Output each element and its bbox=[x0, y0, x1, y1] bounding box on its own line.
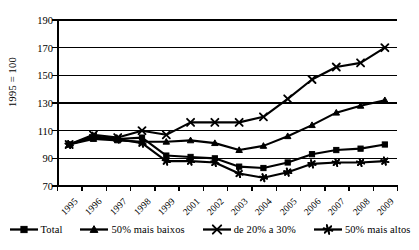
x-axis-tick-mark bbox=[130, 186, 131, 191]
square-marker-icon bbox=[285, 160, 290, 165]
y-axis-title: 1995 = 100 bbox=[7, 37, 21, 127]
square-marker-icon bbox=[382, 142, 387, 147]
x-axis-tick-mark bbox=[300, 186, 301, 191]
square-marker-icon bbox=[9, 223, 39, 236]
x-axis-tick-label: 2002 bbox=[205, 196, 226, 217]
x-axis-tick-mark bbox=[203, 186, 204, 191]
x-axis-tick-mark bbox=[276, 186, 277, 191]
series-line bbox=[69, 48, 385, 145]
asterisk-marker-icon bbox=[308, 160, 315, 167]
plot-area: 7090110130150170190 19951996199719981999… bbox=[57, 20, 397, 186]
x-axis-tick-mark bbox=[81, 186, 82, 191]
series-lines bbox=[57, 20, 397, 186]
x-axis-tick-label: 1995 bbox=[59, 196, 80, 217]
x-axis-tick-label: 1997 bbox=[108, 196, 129, 217]
legend-item-label: 50% mais altos bbox=[345, 224, 411, 235]
y-axis-tick-label: 190 bbox=[37, 15, 53, 26]
legend-item-label: Total bbox=[41, 224, 63, 235]
x-axis-tick-mark bbox=[178, 186, 179, 191]
x-axis-tick-mark bbox=[324, 186, 325, 191]
x-axis-tick-mark bbox=[348, 186, 349, 191]
x-axis-tick-label: 1998 bbox=[132, 196, 153, 217]
x-axis-tick-label: 2005 bbox=[278, 196, 299, 217]
x-axis-tick-label: 2001 bbox=[181, 196, 202, 217]
asterisk-marker-icon bbox=[313, 223, 343, 236]
square-marker-icon bbox=[334, 147, 339, 152]
y-axis-tick-label: 150 bbox=[37, 70, 53, 81]
x-axis-tick-label: 2006 bbox=[302, 196, 323, 217]
legend-item-label: de 20% a 30% bbox=[234, 224, 296, 235]
y-axis-tick-label: 170 bbox=[37, 42, 53, 53]
legend-item[interactable]: 50% mais altos bbox=[313, 223, 411, 236]
x-axis-tick-label: 2007 bbox=[326, 196, 347, 217]
square-marker-icon bbox=[358, 146, 363, 151]
y-axis-tick-label: 110 bbox=[38, 125, 53, 136]
asterisk-marker-icon bbox=[333, 159, 340, 166]
x-axis-tick-mark bbox=[106, 186, 107, 191]
x-axis-tick-mark bbox=[227, 186, 228, 191]
x-axis-tick-label: 1996 bbox=[83, 196, 104, 217]
x-axis-tick-label: 2009 bbox=[375, 196, 396, 217]
x-axis-tick-label: 2003 bbox=[229, 196, 250, 217]
asterisk-marker-icon bbox=[260, 174, 267, 181]
legend-item[interactable]: de 20% a 30% bbox=[202, 223, 296, 236]
asterisk-marker-icon bbox=[284, 169, 291, 176]
x-axis-tick-mark bbox=[397, 186, 398, 191]
square-marker-icon bbox=[309, 152, 314, 157]
chart-legend: Total50% mais baixosde 20% a 30%50% mais… bbox=[0, 219, 419, 239]
x-marker-icon bbox=[381, 44, 388, 51]
x-marker-icon bbox=[202, 223, 232, 236]
x-axis-tick-mark bbox=[251, 186, 252, 191]
y-axis-tick-label: 130 bbox=[37, 98, 53, 109]
square-marker-icon bbox=[261, 165, 266, 170]
square-marker-icon bbox=[237, 164, 242, 169]
square-marker-icon bbox=[20, 226, 26, 232]
asterisk-marker-icon bbox=[324, 225, 333, 234]
x-axis-tick-mark bbox=[57, 186, 58, 191]
asterisk-marker-icon bbox=[357, 159, 364, 166]
x-axis-tick-label: 2008 bbox=[351, 196, 372, 217]
x-marker-icon bbox=[308, 76, 315, 83]
asterisk-marker-icon bbox=[381, 157, 388, 164]
x-axis-tick-mark bbox=[373, 186, 374, 191]
x-axis-tick-mark bbox=[154, 186, 155, 191]
triangle-marker-icon bbox=[79, 223, 109, 236]
x-marker-icon bbox=[284, 95, 291, 102]
asterisk-marker-icon bbox=[236, 170, 243, 177]
legend-item[interactable]: Total bbox=[9, 223, 63, 236]
x-axis-tick-label: 2004 bbox=[253, 196, 274, 217]
legend-item-label: 50% mais baixos bbox=[111, 224, 184, 235]
x-axis-tick-label: 1999 bbox=[156, 196, 177, 217]
legend-item[interactable]: 50% mais baixos bbox=[79, 223, 184, 236]
chart-figure: 1995 = 100 7090110130150170190 199519961… bbox=[0, 0, 419, 250]
